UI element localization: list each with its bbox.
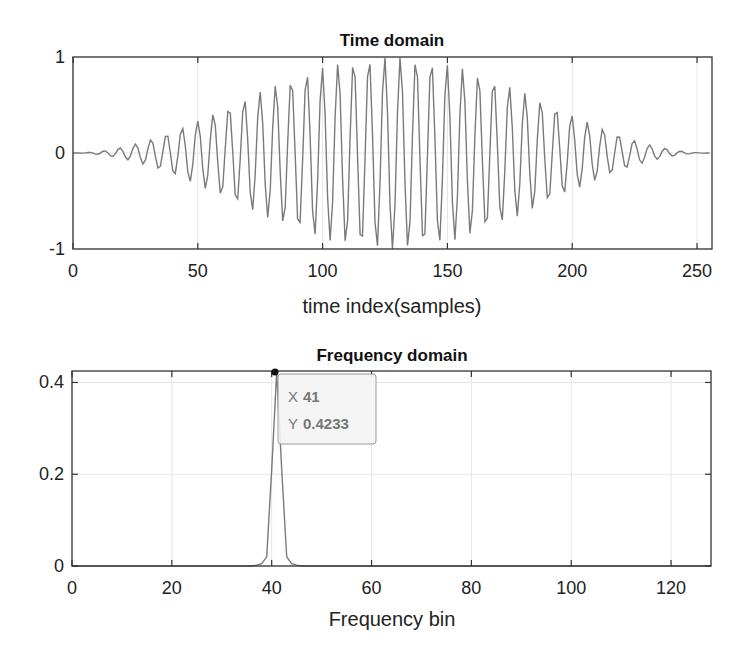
x-tick-label: 0 [68, 261, 78, 281]
x-tick-label: 120 [656, 578, 686, 598]
svg-text:X41: X41 [288, 388, 320, 405]
datatip-x-value: 41 [303, 388, 320, 405]
datatip-y-value: 0.4233 [303, 415, 349, 432]
x-tick-label: 80 [461, 578, 481, 598]
x-tick-label: 20 [162, 578, 182, 598]
x-tick-label: 250 [682, 261, 712, 281]
datatip[interactable]: X41 Y0.4233 [271, 368, 376, 444]
time-grid [73, 57, 712, 249]
frequency-grid [72, 371, 711, 566]
y-tick-label: 0.4 [39, 372, 64, 392]
datatip-box [278, 374, 376, 444]
x-tick-label: 60 [362, 578, 382, 598]
frequency-spectrum-line [72, 372, 711, 566]
frequency-xlabel: Frequency bin [329, 608, 456, 630]
frequency-domain-axes: Frequency domain 02040608010012000.20.4 … [39, 346, 711, 630]
x-tick-label: 200 [557, 261, 587, 281]
svg-text:Y0.4233: Y0.4233 [288, 415, 349, 432]
x-tick-label: 50 [188, 261, 208, 281]
datatip-marker-icon[interactable] [271, 368, 278, 375]
datatip-x-key: X [288, 388, 298, 405]
y-tick-label: 1 [55, 47, 65, 67]
x-tick-label: 100 [556, 578, 586, 598]
figure: Time domain 050100150200250-101 time ind… [0, 0, 748, 661]
frequency-axes-box [72, 371, 711, 566]
x-tick-label: 0 [67, 578, 77, 598]
time-domain-axes: Time domain 050100150200250-101 time ind… [49, 31, 712, 317]
y-tick-label: 0.2 [39, 464, 64, 484]
y-tick-label: 0 [54, 556, 64, 576]
time-xlabel: time index(samples) [303, 295, 482, 317]
x-tick-label: 150 [432, 261, 462, 281]
frequency-domain-title: Frequency domain [316, 346, 467, 365]
y-tick-label: -1 [49, 239, 65, 259]
datatip-y-key: Y [288, 415, 298, 432]
x-tick-label: 40 [262, 578, 282, 598]
x-tick-label: 100 [308, 261, 338, 281]
time-domain-title: Time domain [340, 31, 445, 50]
y-tick-label: 0 [55, 143, 65, 163]
